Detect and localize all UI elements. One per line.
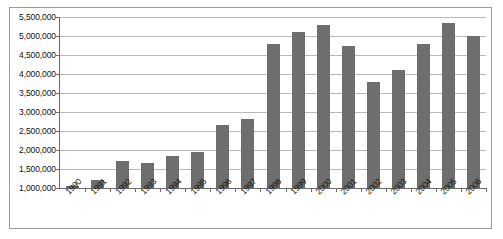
bars-layer [60,17,486,188]
bar [317,25,330,188]
y-tick-label: 5,500,000 [19,13,56,22]
y-tick-label: 3,500,000 [19,89,56,98]
plot-area [59,17,486,189]
bar [367,82,380,188]
y-tick-label: 3,000,000 [19,108,56,117]
y-tick-label: 2,500,000 [19,127,56,136]
bar [292,32,305,188]
x-tick-mark [486,188,487,192]
y-tick-label: 5,000,000 [19,32,56,41]
bar [392,70,405,188]
y-tick-label: 2,000,000 [19,146,56,155]
bar [467,36,480,188]
bar-chart-figure: 1,000,0001,500,0002,000,0002,500,0003,00… [9,7,492,229]
bar [342,46,355,189]
x-axis-tick-labels: 1990199119921993199419951996199719981999… [59,190,485,228]
bar [267,44,280,188]
y-tick-label: 4,000,000 [19,70,56,79]
y-axis-tick-labels: 1,000,0001,500,0002,000,0002,500,0003,00… [10,8,58,193]
y-tick-mark [56,188,60,189]
y-tick-label: 4,500,000 [19,51,56,60]
bar [417,44,430,188]
plot-wrapper: 1,000,0001,500,0002,000,0002,500,0003,00… [10,8,491,228]
y-tick-label: 1,000,000 [19,184,56,193]
bar [442,23,455,188]
y-tick-label: 1,500,000 [19,165,56,174]
